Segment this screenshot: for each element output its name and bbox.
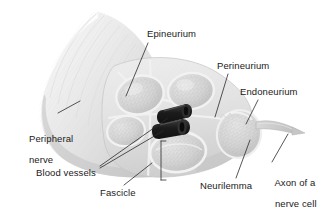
axon-filament <box>256 121 305 135</box>
label-perineurium: Perineurium <box>217 61 269 72</box>
label-fascicle: Fascicle <box>100 188 136 199</box>
label-peripheral-nerve-line1: Peripheral <box>29 133 73 144</box>
label-peripheral-nerve-line2: nerve <box>29 154 53 165</box>
label-endoneurium: Endoneurium <box>240 87 298 98</box>
nerve-anatomy-figure: Epineurium Perineurium Endoneurium Perip… <box>0 0 322 213</box>
label-axon-line1: Axon of a <box>274 177 315 188</box>
label-neurilemma: Neurilemma <box>200 181 252 192</box>
label-blood-vessels: Blood vessels <box>36 168 96 179</box>
label-axon-of-nerve-cell: Axon of a nerve cell <box>264 167 317 213</box>
label-epineurium: Epineurium <box>147 29 196 40</box>
leader-axon <box>272 134 288 162</box>
label-axon-line2: nerve cell <box>275 198 317 209</box>
